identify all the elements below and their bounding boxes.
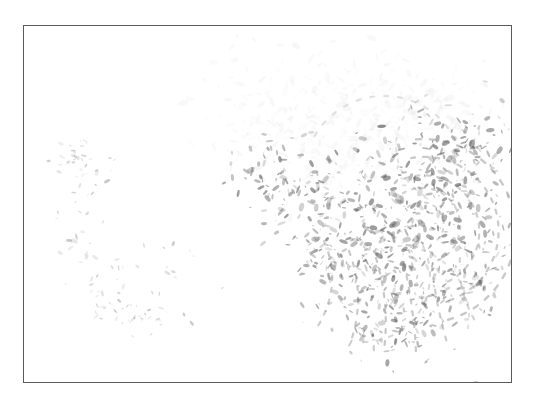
tail-3 — [376, 258, 386, 350]
image-border — [23, 25, 512, 383]
fingerprint-ridge-pattern — [24, 26, 511, 382]
arc-core-a — [403, 188, 460, 261]
tail-2 — [349, 251, 358, 341]
ridge-series-sparse-left-marks — [46, 140, 224, 338]
fingerprint-plate — [24, 26, 511, 382]
fingerprint-image-viewer — [0, 0, 536, 407]
